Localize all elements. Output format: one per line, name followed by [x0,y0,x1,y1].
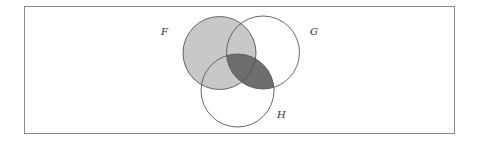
venn-diagram [0,0,480,143]
label-g: G [310,27,318,37]
label-f: F [161,27,168,37]
label-h: H [277,110,286,120]
